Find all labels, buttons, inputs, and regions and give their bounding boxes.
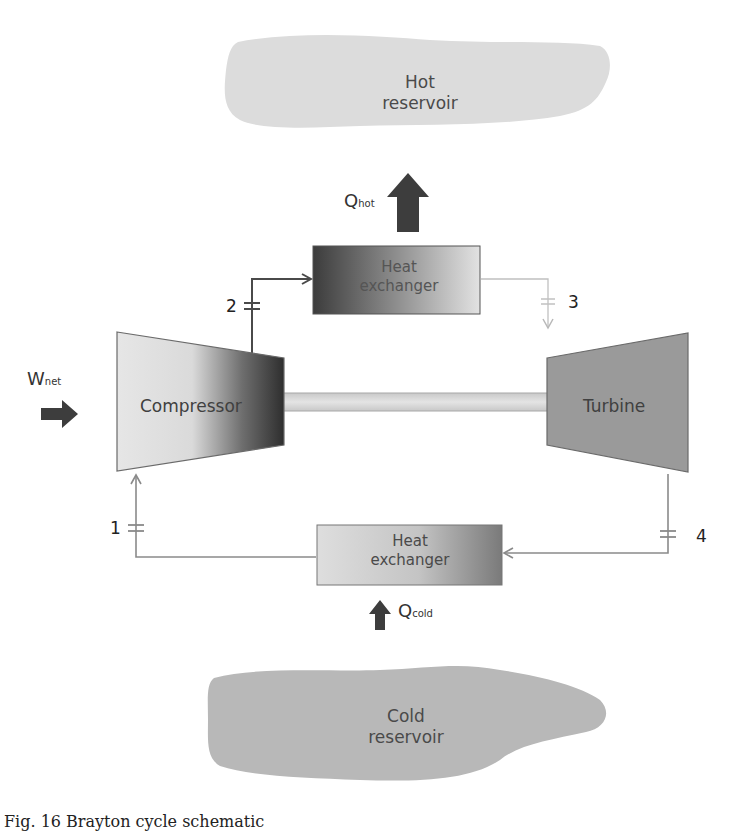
cold-reservoir-line1: Cold [356,706,456,727]
hot-heat-exchanger-label: Heat exchanger [336,258,462,296]
hot-hx-line1: Heat [336,258,462,277]
w-net-symbol: W [27,368,45,389]
state-4-label: 4 [696,526,707,547]
q-cold-symbol: Q [398,600,412,621]
cold-reservoir-line2: reservoir [356,727,456,748]
q-cold-label: Qcold [398,600,433,623]
q-hot-symbol: Q [344,190,358,211]
w-net-label: Wnet [27,368,61,391]
w-net-subscript: net [45,376,61,387]
hot-reservoir-line1: Hot [370,72,470,93]
pipe-1 [136,475,316,557]
figure-caption: Fig. 16 Brayton cycle schematic [4,812,264,831]
q-hot-subscript: hot [358,198,374,209]
turbine-label: Turbine [583,396,645,417]
q-cold-subscript: cold [412,608,433,619]
pipe-4 [504,474,668,553]
hot-reservoir-line2: reservoir [370,93,470,114]
q-hot-label: Qhot [344,190,375,213]
q-cold-arrow-icon [369,600,391,630]
shaft [282,393,550,411]
q-hot-arrow-icon [387,173,429,232]
pipe-2 [252,279,311,357]
cold-reservoir-label: Cold reservoir [356,706,456,749]
state-2-label: 2 [226,296,237,317]
hot-reservoir-label: Hot reservoir [370,72,470,115]
compressor-label: Compressor [140,396,242,417]
state-3-label: 3 [568,292,579,313]
w-net-arrow-icon [41,400,78,428]
cold-hx-line2: exchanger [347,551,473,570]
pipe-3 [481,279,548,328]
cold-hx-line1: Heat [347,532,473,551]
state-1-label: 1 [110,518,121,539]
hot-hx-line2: exchanger [336,277,462,296]
cold-heat-exchanger-label: Heat exchanger [347,532,473,570]
